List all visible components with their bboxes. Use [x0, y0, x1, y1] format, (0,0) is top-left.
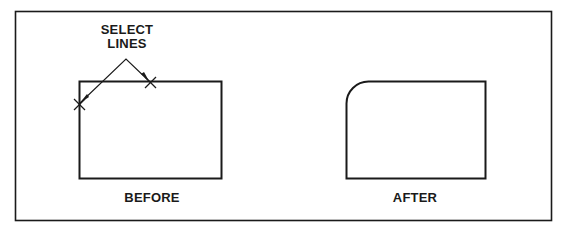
- arrowhead-left-icon: [80, 94, 89, 103]
- before-label: BEFORE: [112, 191, 192, 205]
- select-lines-label: SELECT LINES: [96, 23, 158, 51]
- arrowhead-icons: [80, 72, 149, 103]
- select-lines-label-line2: LINES: [96, 37, 158, 51]
- fillet-diagram: [0, 0, 566, 233]
- after-filleted-rectangle: [347, 82, 486, 179]
- before-rectangle: [80, 82, 222, 179]
- after-label: AFTER: [375, 191, 455, 205]
- select-lines-label-line1: SELECT: [96, 23, 158, 37]
